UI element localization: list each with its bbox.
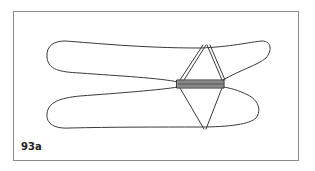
lower-loop — [47, 87, 259, 128]
upper-loop — [47, 41, 270, 82]
upper-strut-left — [180, 45, 203, 80]
wire-loop-drawing — [0, 0, 315, 171]
upper-strut-left-2 — [184, 45, 206, 80]
upper-strut-right-2 — [210, 45, 225, 80]
figure-label: 93a — [21, 141, 42, 152]
lower-strut-left — [180, 88, 204, 129]
upper-strut-right — [207, 45, 222, 80]
lower-strut-right — [206, 88, 222, 129]
